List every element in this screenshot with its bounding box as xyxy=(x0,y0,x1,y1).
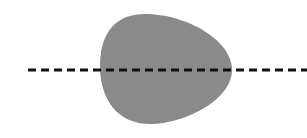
diagram-canvas xyxy=(0,0,307,138)
